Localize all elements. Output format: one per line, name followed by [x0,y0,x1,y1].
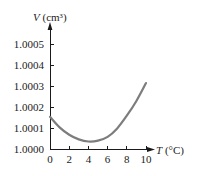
y-tick-label: 1.0001 [14,122,44,134]
y-tick-label: 1.0002 [14,101,44,113]
y-tick-label: 1.0003 [14,80,45,92]
y-axis-unit: (cm³) [40,11,67,24]
y-tick-label: 1.0005 [14,38,45,50]
y-tick-label: 1.0004 [14,59,45,71]
y-axis-arrow-icon [48,22,53,30]
y-axis-title: V (cm³) [33,11,67,24]
x-axis-title: T (°C) [156,144,184,157]
x-axis-unit: (°C) [162,144,184,157]
volume-curve [50,83,146,142]
volume-vs-temperature-chart: 1.00001.00011.00021.00031.00041.0005 024… [0,0,208,176]
y-tick-label: 1.0000 [14,143,45,155]
x-tick-label: 0 [47,153,53,165]
x-tick-label: 4 [86,153,92,165]
x-tick-label: 8 [124,153,130,165]
x-axis-arrow-icon [147,147,155,152]
x-tick-label: 6 [105,153,111,165]
x-axis-ticks: 0246810 [47,146,152,166]
y-axis-ticks: 1.00001.00011.00021.00031.00041.0005 [14,38,54,156]
x-tick-label: 2 [66,153,72,165]
x-tick-label: 10 [141,153,153,165]
